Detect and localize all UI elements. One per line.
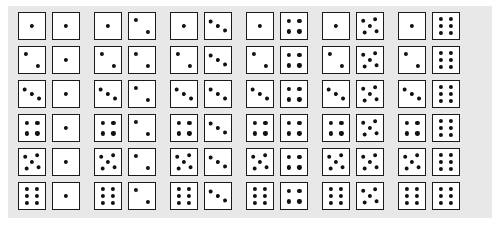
pip-icon xyxy=(410,24,415,29)
die-face-4-pips xyxy=(281,47,307,73)
pip-icon xyxy=(25,166,30,171)
pip-icon xyxy=(101,201,105,205)
pip-icon xyxy=(35,153,40,158)
pip-icon xyxy=(263,194,267,198)
die-face-1-pips xyxy=(51,11,81,41)
die-face-4-pips xyxy=(281,183,307,209)
die-second-value-3 xyxy=(204,12,232,40)
die-face-5-pips xyxy=(246,148,275,177)
die-second-value-5 xyxy=(356,46,384,74)
pip-icon xyxy=(263,153,268,158)
pip-icon xyxy=(286,199,290,203)
pip-icon xyxy=(327,155,332,160)
die-second-value-5 xyxy=(356,114,384,142)
die-second-value-3 xyxy=(204,182,232,210)
pip-icon xyxy=(361,19,366,24)
outcome-1-2 xyxy=(94,12,160,42)
outcome-4-2 xyxy=(94,114,160,144)
pip-icon xyxy=(449,201,453,205)
pip-icon xyxy=(439,201,443,205)
outcome-6-1 xyxy=(18,182,84,212)
die-first-value-1 xyxy=(170,12,198,40)
pip-icon xyxy=(112,64,116,68)
pip-icon xyxy=(64,24,69,29)
pip-icon xyxy=(187,194,191,198)
pip-icon xyxy=(449,65,453,69)
pip-icon xyxy=(439,65,443,69)
pip-icon xyxy=(182,160,187,165)
pip-icon xyxy=(297,199,301,203)
pip-icon xyxy=(374,29,379,34)
pip-icon xyxy=(328,131,332,135)
die-face-5-pips xyxy=(356,12,385,41)
outcome-4-1 xyxy=(18,114,84,144)
pip-icon xyxy=(253,166,258,171)
pip-icon xyxy=(25,187,29,191)
pip-icon xyxy=(333,91,338,96)
pip-icon xyxy=(449,17,453,21)
die-second-value-6 xyxy=(432,114,460,142)
pip-icon xyxy=(339,187,343,191)
die-first-value-6 xyxy=(94,182,122,210)
pip-icon xyxy=(189,96,194,101)
die-face-1-pips xyxy=(397,11,427,41)
pip-icon xyxy=(24,120,28,124)
die-face-3-pips xyxy=(92,78,123,109)
pip-icon xyxy=(35,187,39,191)
die-face-6-pips xyxy=(433,13,459,39)
outcome-row-4 xyxy=(0,114,500,148)
die-second-value-5 xyxy=(356,182,384,210)
pip-icon xyxy=(111,120,115,124)
pip-icon xyxy=(363,98,368,103)
pip-icon xyxy=(328,120,332,124)
pip-icon xyxy=(106,24,111,29)
outcome-2-3 xyxy=(170,46,236,76)
pip-icon xyxy=(187,153,192,158)
outcome-5-4 xyxy=(246,148,312,178)
pip-icon xyxy=(215,125,220,130)
die-first-value-5 xyxy=(94,148,122,176)
pip-icon xyxy=(439,51,443,55)
pip-icon xyxy=(417,96,422,101)
die-face-4-pips xyxy=(323,115,349,141)
die-face-1-pips xyxy=(17,11,47,41)
die-face-3-pips xyxy=(202,180,233,211)
pip-icon xyxy=(101,187,105,191)
pip-icon xyxy=(449,167,453,171)
die-face-2-pips xyxy=(399,47,425,73)
pip-icon xyxy=(146,64,150,68)
pip-icon xyxy=(175,155,180,160)
pip-icon xyxy=(297,154,301,158)
pip-icon xyxy=(134,120,138,124)
pip-icon xyxy=(439,187,443,191)
pip-icon xyxy=(250,87,255,92)
pip-icon xyxy=(223,164,228,169)
pip-icon xyxy=(363,132,368,137)
pip-icon xyxy=(134,52,138,56)
two-dice-sample-space-figure xyxy=(0,0,500,225)
die-second-value-2 xyxy=(128,182,156,210)
pip-icon xyxy=(415,187,419,191)
pip-icon xyxy=(187,120,191,124)
pip-icon xyxy=(363,200,368,205)
pip-icon xyxy=(176,120,180,124)
die-face-6-pips xyxy=(433,115,459,141)
outcome-3-1 xyxy=(18,80,84,110)
outcome-5-6 xyxy=(398,148,464,178)
pip-icon xyxy=(326,87,331,92)
pip-icon xyxy=(286,97,290,101)
pip-icon xyxy=(134,188,138,192)
die-second-value-3 xyxy=(204,46,232,74)
die-first-value-3 xyxy=(18,80,46,108)
die-first-value-2 xyxy=(398,46,426,74)
die-second-value-2 xyxy=(128,114,156,142)
die-face-2-pips xyxy=(323,47,349,73)
die-first-value-3 xyxy=(398,80,426,108)
pip-icon xyxy=(405,187,409,191)
pip-icon xyxy=(264,165,269,170)
outcome-5-3 xyxy=(170,148,236,178)
die-face-2-pips xyxy=(95,47,121,73)
outcome-6-4 xyxy=(246,182,312,212)
die-face-5-pips xyxy=(170,148,199,177)
pip-icon xyxy=(111,194,115,198)
